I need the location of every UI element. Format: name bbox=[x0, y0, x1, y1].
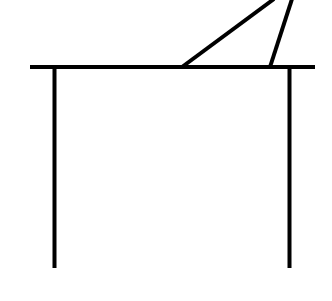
diagram-canvas bbox=[0, 0, 332, 301]
background bbox=[0, 0, 332, 301]
